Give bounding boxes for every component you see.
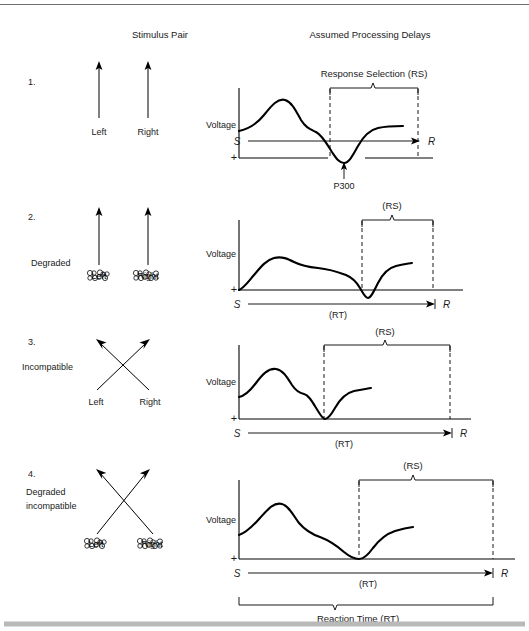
row-3-s-label: S: [234, 428, 241, 439]
row-3: 3. Incompatible Left Right (RS): [0, 325, 529, 450]
row-2-waveform-panel: (RS) Voltage + S R (RT): [228, 196, 529, 321]
up-arrow-left-icon: [96, 207, 103, 265]
row-1-left-label: Left: [91, 127, 107, 137]
top-rule: [0, 0, 529, 10]
row-1: 1. Left Right Response Selection (RS): [0, 55, 529, 190]
row-4-rs-bracket: [359, 475, 493, 487]
row-3-rs-label: (RS): [375, 326, 395, 337]
row-2-plus-label: +: [231, 283, 237, 295]
row-2-rs-bracket: [362, 215, 433, 227]
bottom-rule: [0, 618, 529, 630]
row-3-erp-waveform: [239, 369, 371, 419]
row-4-s-label: S: [234, 568, 241, 579]
row-3-r-label: R: [460, 428, 467, 439]
row-4-condition-label-2: incompatible: [26, 501, 77, 511]
up-arrow-left-icon: [96, 61, 103, 118]
crossed-arrow-left-to-right-icon: [97, 339, 150, 390]
row-4-r-label: R: [501, 568, 508, 579]
row-4: 4. Degraded incompatible Left: [0, 455, 529, 630]
row-3-plus-label: +: [231, 412, 237, 424]
row-1-voltage-label: Voltage: [206, 120, 236, 130]
row-4-rt-label: (RT): [359, 579, 377, 589]
row-4-right-label-degraded: Right: [137, 538, 163, 549]
row-1-plus-label: +: [231, 151, 237, 163]
row-1-number: 1.: [28, 77, 36, 87]
row-3-waveform-panel: (RS) Voltage + S R (RT): [228, 325, 529, 450]
header-stimulus-pair: Stimulus Pair: [95, 24, 225, 42]
row-2-number: 2.: [28, 212, 36, 222]
row-4-rs-label: (RS): [403, 460, 423, 471]
row-2-stimulus-diagram: Left Right: [70, 200, 220, 305]
header-processing-delays-label: Assumed Processing Delays: [310, 29, 431, 40]
crossed-arrow-right-to-left-icon: [96, 339, 149, 390]
row-2-voltage-label: Voltage: [206, 249, 236, 259]
row-1-erp-waveform: [239, 100, 403, 163]
row-2-condition-label: Degraded: [31, 258, 71, 268]
figure-canvas: Stimulus Pair Assumed Processing Delays …: [0, 0, 529, 631]
row-1-r-label: R: [428, 136, 435, 147]
row-1-right-label: Right: [137, 127, 159, 137]
row-4-voltage-label: Voltage: [206, 515, 236, 525]
row-1-stimulus-diagram: Left Right: [70, 55, 220, 160]
row-1-rs-bracket: [330, 83, 418, 95]
row-2-erp-waveform: [239, 257, 412, 298]
row-4-condition-label: Degraded: [26, 487, 66, 497]
row-1-rs-label: Response Selection (RS): [321, 68, 428, 79]
up-arrow-right-icon: [145, 61, 152, 118]
row-2-right-label-degraded: Right: [133, 270, 159, 281]
row-2-rt-label: (RT): [329, 310, 347, 320]
row-1-p300-label: P300: [333, 181, 354, 191]
row-3-left-label: Left: [88, 397, 104, 407]
row-1-waveform-panel: Response Selection (RS) Voltage + S R P3…: [228, 55, 529, 190]
row-2: 2. Degraded Left: [0, 196, 529, 321]
row-2-left-label-degraded: Left: [87, 270, 109, 281]
row-4-erp-waveform: [239, 504, 413, 559]
row-3-rt-label: (RT): [335, 439, 353, 449]
row-3-number: 3.: [28, 337, 36, 347]
header-stimulus-pair-label: Stimulus Pair: [132, 29, 188, 40]
row-4-plus-label: +: [231, 552, 237, 564]
up-arrow-right-icon: [145, 207, 152, 265]
row-3-stimulus-diagram: Left Right: [70, 329, 220, 434]
row-2-r-label: R: [443, 299, 450, 310]
row-4-stimulus-diagram: Left Right: [70, 459, 220, 564]
row-3-right-label: Right: [139, 397, 161, 407]
row-2-rs-label: (RS): [382, 200, 402, 211]
row-4-left-label-degraded: Left: [84, 538, 106, 549]
row-1-s-label: S: [234, 136, 241, 147]
row-3-rs-bracket: [324, 340, 450, 352]
row-4-reaction-time-bracket: [239, 597, 493, 610]
row-3-condition-label: Incompatible: [22, 362, 73, 372]
header-processing-delays: Assumed Processing Delays: [255, 24, 485, 42]
row-2-s-label: S: [234, 299, 241, 310]
row-4-number: 4.: [28, 469, 36, 479]
row-3-voltage-label: Voltage: [206, 377, 236, 387]
row-4-waveform-panel: (RS) Voltage + S R (RT) Reaction Time (R…: [228, 455, 529, 630]
